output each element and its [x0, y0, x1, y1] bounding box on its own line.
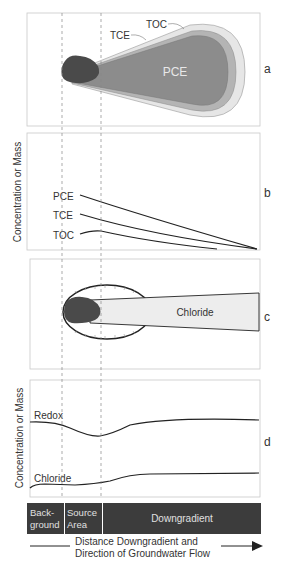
arrow-right-icon [252, 541, 263, 551]
panel-d: Redox Chloride Concentration or Mass d [14, 380, 271, 497]
toc-curve-label: TOC [53, 230, 74, 241]
zone-downgradient-label: Downgradient [151, 513, 213, 524]
panel-b-ylabel: Concentration or Mass [12, 142, 23, 243]
axis-label-line2: Direction of Groundwater Flow [75, 548, 211, 559]
tce-curve-label: TCE [53, 210, 73, 221]
panel-c: Chloride c [30, 259, 270, 369]
distance-axis: Distance Downgradient and Direction of G… [30, 536, 263, 559]
axis-label-line1: Distance Downgradient and [75, 536, 198, 547]
zone-source-label-2: Area [67, 519, 88, 530]
chloride-plume-label: Chloride [176, 307, 214, 318]
panel-d-ylabel: Concentration or Mass [14, 388, 25, 489]
toc-label: TOC [146, 19, 167, 30]
pce-label: PCE [163, 65, 188, 79]
tce-label: TCE [110, 30, 130, 41]
panel-d-letter: d [264, 435, 271, 449]
panel-b-letter: b [264, 186, 271, 200]
redox-curve-label: Redox [34, 410, 63, 421]
panel-c-letter: c [264, 310, 270, 324]
zone-background-label-2: ground [30, 519, 60, 530]
zone-background-label-1: Back- [30, 507, 54, 518]
chloride-curve-label: Chloride [34, 473, 72, 484]
pce-curve-label: PCE [53, 191, 74, 202]
zone-bar: Back- ground Source Area Downgradient [27, 503, 261, 534]
panel-b: PCE TCE TOC Concentration or Mass b [12, 133, 271, 250]
panel-a: PCE TCE TOC a [27, 13, 271, 126]
plume-diagram: PCE TCE TOC a PCE TCE TOC Concentration … [0, 0, 283, 569]
panel-a-letter: a [264, 62, 271, 76]
zone-source-label-1: Source [67, 507, 97, 518]
